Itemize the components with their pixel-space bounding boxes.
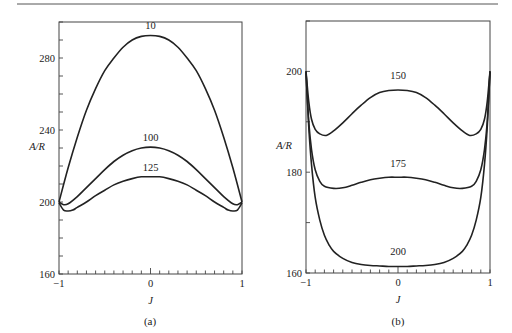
- y-tick-label: 200: [286, 66, 302, 77]
- series-label-10: 10: [145, 20, 156, 31]
- panel-b-chart: 160180200−101JA/R150175200: [275, 21, 493, 305]
- series-label-125: 125: [143, 162, 159, 173]
- y-tick-label: 200: [39, 197, 55, 208]
- x-tick-label: 0: [395, 277, 400, 288]
- y-tick-label: 280: [39, 53, 55, 64]
- series-curve-125: [59, 177, 242, 211]
- y-axis-label: A/R: [28, 141, 45, 152]
- x-axis-label: J: [396, 294, 402, 305]
- plot-frame: [306, 21, 490, 273]
- y-tick-label: 180: [286, 167, 302, 178]
- y-tick-label: 240: [39, 125, 55, 136]
- panel-a-caption: (a): [144, 315, 157, 328]
- series-label-100: 100: [143, 132, 159, 143]
- series-curve-150: [306, 71, 490, 135]
- panel-b-caption: (b): [392, 315, 405, 328]
- y-axis-label: A/R: [275, 140, 292, 151]
- series-label-200: 200: [390, 246, 406, 257]
- plot-frame: [59, 22, 242, 274]
- x-tick-label: −1: [53, 278, 64, 289]
- series-label-175: 175: [390, 158, 406, 169]
- x-tick-label: −1: [300, 277, 311, 288]
- panel-a-chart: 160200240280−101JA/R10100125: [28, 20, 245, 306]
- x-tick-label: 1: [487, 277, 492, 288]
- figure: 160200240280−101JA/R10100125 160180200−1…: [0, 0, 512, 333]
- series-label-150: 150: [390, 70, 406, 81]
- x-axis-label: J: [148, 295, 154, 306]
- x-tick-label: 1: [239, 278, 244, 289]
- x-tick-label: 0: [148, 278, 153, 289]
